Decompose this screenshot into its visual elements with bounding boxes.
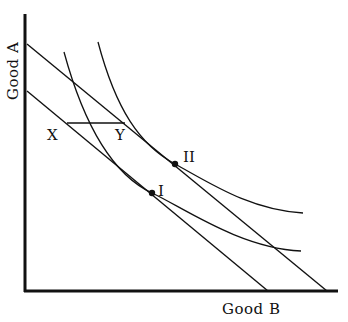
point-2-dot: [172, 161, 178, 167]
y-marker-label: Y: [114, 126, 126, 144]
point-2-label: II: [183, 148, 195, 166]
point-1-dot: [149, 190, 155, 196]
point-1-label: I: [158, 182, 164, 200]
x-axis-label: Good B: [222, 300, 280, 318]
x-marker-label: X: [47, 126, 58, 144]
budget-line-upper: [27, 44, 327, 291]
y-axis-label: Good A: [4, 42, 22, 100]
indifference-curve-diagram: I II X Y Good B Good A: [0, 0, 348, 322]
